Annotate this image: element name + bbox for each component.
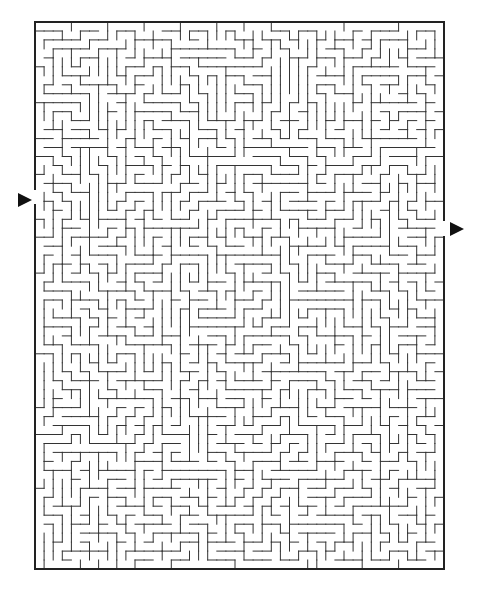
- maze: [0, 0, 481, 590]
- entrance-arrow-icon: [18, 193, 32, 207]
- maze-walls: [35, 22, 444, 569]
- maze-border: [35, 22, 444, 569]
- exit-arrow-icon: [450, 222, 464, 236]
